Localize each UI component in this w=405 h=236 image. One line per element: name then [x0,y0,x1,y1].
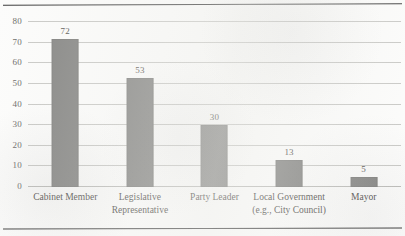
category-label: LegislativeRepresentative [112,191,168,216]
category-label-line: (e.g., City Council) [252,204,326,217]
y-axis-tick-label: 70 [13,37,22,47]
category-label: Mayor [351,191,376,204]
bar [126,78,153,187]
bar [276,160,303,187]
category-label-line: Mayor [351,191,376,204]
category-label-line: Local Government [252,191,326,204]
bar [350,177,377,187]
category-label-line: Legislative [112,191,168,204]
category-label-line: Representative [112,204,168,217]
bar-slot: 13 [252,22,327,187]
category-label-line: Cabinet Member [33,191,97,204]
bar-slot: 5 [326,22,401,187]
y-axis-tick-label: 10 [13,160,22,170]
bar [201,125,228,187]
plot-area: 01020304050607080 725330135 [28,22,401,187]
y-axis-tick-label: 50 [13,78,22,88]
bar-slot: 72 [28,22,103,187]
bars-group: 725330135 [28,22,401,187]
y-axis-tick-label: 20 [13,140,22,150]
bar-value-label: 53 [135,65,144,75]
y-axis-tick-label: 0 [17,181,22,191]
y-axis-tick-label: 30 [13,119,22,129]
bar-slot: 53 [103,22,178,187]
page-rule-top [3,3,402,5]
bar-value-label: 5 [361,164,366,174]
bar-chart-figure: 01020304050607080 725330135 Cabinet Memb… [0,0,405,236]
category-label: Party Leader [190,191,239,204]
bar [52,39,79,188]
y-axis-tick-label: 80 [13,16,22,26]
category-axis-labels: Cabinet MemberLegislativeRepresentativeP… [28,191,401,231]
bar-value-label: 30 [210,112,219,122]
category-label-line: Party Leader [190,191,239,204]
bar-slot: 30 [177,22,252,187]
y-axis-tick-label: 40 [13,99,22,109]
y-axis-tick-label: 60 [13,57,22,67]
bar-value-label: 13 [284,147,293,157]
category-label: Cabinet Member [33,191,97,204]
category-label: Local Government(e.g., City Council) [252,191,326,216]
bar-value-label: 72 [61,26,70,36]
